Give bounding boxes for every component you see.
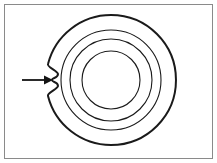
figure-root: Concentric circles with notch indicated … — [0, 0, 217, 163]
concentric-circles-figure — [0, 0, 217, 163]
figure-background — [0, 0, 217, 163]
